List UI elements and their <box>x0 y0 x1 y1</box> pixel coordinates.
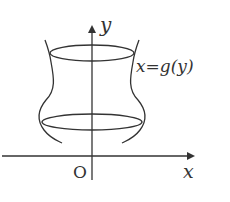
y-axis-label: y <box>99 13 112 37</box>
x-axis-label: x <box>183 160 194 182</box>
origin-label: O <box>73 162 87 182</box>
diagram-canvas: y x=g(y) O x <box>0 0 230 202</box>
curve-label: x=g(y) <box>136 56 194 76</box>
